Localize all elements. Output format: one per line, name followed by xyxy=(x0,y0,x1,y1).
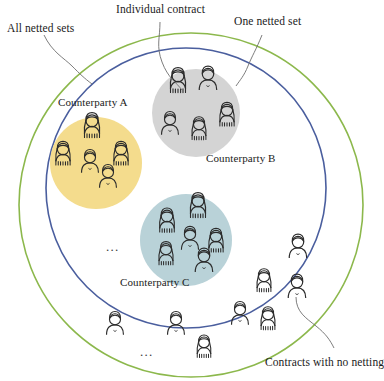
callout-all-netted-sets: All netted sets xyxy=(7,23,74,35)
callout-individual-contract: Individual contract xyxy=(116,4,205,16)
unnetted-person-male-icon xyxy=(289,234,306,258)
leader-contracts-no-netting xyxy=(296,297,334,348)
counterparty-b-circle xyxy=(152,69,240,157)
callout-contracts-no-netting: Contracts with no netting xyxy=(265,357,384,369)
ellipsis-left: ... xyxy=(106,240,119,253)
unnetted-person-male-icon xyxy=(168,312,185,335)
label-counterparty-a: Counterparty A xyxy=(58,97,128,108)
unnetted-person-female-icon xyxy=(257,269,271,292)
leader-all-netted-sets xyxy=(44,35,92,84)
unnetted-person-male-icon xyxy=(107,312,124,335)
label-counterparty-c: Counterparty C xyxy=(120,277,190,288)
unnetted-person-male-icon xyxy=(288,274,305,298)
label-counterparty-b: Counterparty B xyxy=(206,153,276,164)
callout-one-netted-set: One netted set xyxy=(234,16,301,28)
unnetted-person-male-icon xyxy=(232,302,249,325)
unnetted-person-female-icon xyxy=(261,307,275,330)
unnetted-person-female-icon xyxy=(197,335,211,358)
ellipsis-bottom: ... xyxy=(140,345,153,358)
